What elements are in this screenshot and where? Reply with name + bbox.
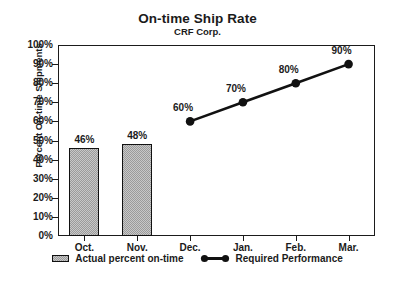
x-tick-mark bbox=[296, 236, 297, 241]
y-tick-mark bbox=[52, 160, 58, 161]
y-tick-mark bbox=[52, 179, 58, 180]
chart-legend: Actual percent on-time Required Performa… bbox=[0, 253, 395, 264]
y-tick-mark bbox=[52, 217, 58, 218]
y-tick-label: 20% bbox=[7, 193, 53, 203]
bar-swatch-icon bbox=[52, 255, 69, 262]
x-tick-mark bbox=[349, 236, 350, 241]
x-tick-label: Jan. bbox=[213, 242, 273, 253]
bar-value-label: 46% bbox=[54, 134, 114, 145]
x-tick-label: Dec. bbox=[160, 242, 220, 253]
legend-entry-required: Required Performance bbox=[200, 253, 343, 264]
y-tick-label: 80% bbox=[7, 78, 53, 88]
y-tick-mark bbox=[52, 64, 58, 65]
chart-container: On-time Ship Rate CRF Corp. Percent On-t… bbox=[0, 0, 395, 284]
y-tick-label: 90% bbox=[7, 59, 53, 69]
y-tick-label: 10% bbox=[7, 212, 53, 222]
chart-title: On-time Ship Rate bbox=[0, 11, 395, 26]
x-tick-mark bbox=[84, 236, 85, 241]
y-tick-mark bbox=[52, 83, 58, 84]
y-tick-mark bbox=[52, 198, 58, 199]
y-tick-mark bbox=[52, 121, 58, 122]
y-tick-label: 30% bbox=[7, 174, 53, 184]
y-tick-label: 40% bbox=[7, 155, 53, 165]
x-tick-mark bbox=[243, 236, 244, 241]
x-tick-label: Nov. bbox=[107, 242, 167, 253]
line-marker-icon bbox=[200, 254, 230, 263]
y-tick-mark bbox=[52, 102, 58, 103]
y-tick-label: 100% bbox=[7, 40, 53, 50]
y-tick-label: 50% bbox=[7, 136, 53, 146]
x-tick-mark bbox=[137, 236, 138, 241]
line-point-label: 70% bbox=[206, 83, 266, 94]
line-point-label: 90% bbox=[312, 45, 372, 56]
legend-entry-actual: Actual percent on-time bbox=[52, 253, 183, 264]
x-tick-mark bbox=[190, 236, 191, 241]
chart-subtitle: CRF Corp. bbox=[0, 26, 395, 37]
bar-value-label: 48% bbox=[107, 130, 167, 141]
x-tick-label: Oct. bbox=[54, 242, 114, 253]
bar bbox=[69, 148, 99, 236]
x-tick-label: Feb. bbox=[266, 242, 326, 253]
y-tick-label: 70% bbox=[7, 97, 53, 107]
legend-label-actual: Actual percent on-time bbox=[75, 253, 183, 264]
x-tick-label: Mar. bbox=[319, 242, 379, 253]
legend-label-required: Required Performance bbox=[236, 253, 343, 264]
line-point-label: 60% bbox=[153, 102, 213, 113]
y-tick-label: 60% bbox=[7, 116, 53, 126]
y-tick-label: 0% bbox=[7, 231, 53, 241]
bar bbox=[122, 144, 152, 236]
line-point-label: 80% bbox=[259, 64, 319, 75]
